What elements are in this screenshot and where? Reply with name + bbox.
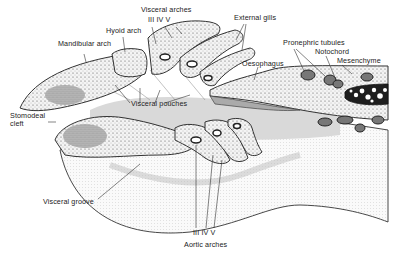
label-stomodeal-cleft-2: cleft <box>10 120 24 128</box>
label-aortic-arches: Aortic arches <box>184 241 227 249</box>
label-visceral-arches-numerals: III IV V <box>148 16 170 24</box>
label-mandibular-arch: Mandibular arch <box>58 40 111 48</box>
label-notochord: Notochord <box>315 48 349 56</box>
label-visceral-pouches: Visceral pouches <box>131 100 187 108</box>
label-visceral-arches: Visceral arches <box>141 6 192 14</box>
label-hyoid-arch: Hyoid arch <box>106 27 141 35</box>
label-external-gills: External gills <box>234 14 276 22</box>
label-aortic-arches-numerals: III IV V <box>193 229 215 237</box>
label-mesenchyme: Mesenchyme <box>337 57 381 65</box>
label-oesophagus: Oesophagus <box>242 60 284 68</box>
embryo-pharynx-diagram: Visceral arches III IV V Hyoid arch Mand… <box>0 0 395 260</box>
label-pronephric-tubules: Pronephric tubules <box>283 39 345 47</box>
label-visceral-groove: Visceral groove <box>43 198 94 206</box>
